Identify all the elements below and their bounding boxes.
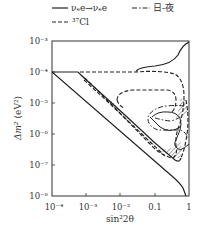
legend-label-nue: νₑe→νₑe (71, 3, 107, 13)
svg-text:10⁻⁶: 10⁻⁶ (29, 129, 48, 139)
svg-text:0.1: 0.1 (148, 202, 162, 212)
dashed-curve-inner-lower (117, 100, 124, 108)
x-axis-label: sin²2θ (106, 214, 134, 224)
legend-item-solid: νₑe→νₑe (52, 3, 107, 13)
plot-area (52, 42, 189, 196)
y-tick-labels: 10⁻³ 10⁻⁴ 10⁻⁵ 10⁻⁶ 10⁻⁷ 10⁻⁸ (29, 36, 48, 201)
chart: νₑe→νₑe 日-夜 ³⁷Cl Δm²(eV²) 10⁻³ 10⁻⁴ 10⁻⁵… (0, 0, 201, 234)
dashed-curve-inner (117, 90, 176, 112)
svg-text:10⁻²: 10⁻² (112, 202, 131, 212)
svg-text:10⁻⁴: 10⁻⁴ (29, 67, 48, 77)
solid-curve-upper (52, 72, 181, 161)
svg-text:10⁻³: 10⁻³ (79, 202, 98, 212)
x-tick-labels: 10⁻⁴ 10⁻³ 10⁻² 0.1 1 (45, 202, 192, 212)
svg-text:1: 1 (186, 202, 191, 212)
solid-curve-lower (52, 72, 186, 196)
legend-item-dashed: ³⁷Cl (52, 17, 89, 27)
svg-text:10⁻⁷: 10⁻⁷ (29, 160, 48, 170)
svg-text:10⁻⁴: 10⁻⁴ (45, 202, 64, 212)
svg-text:10⁻⁵: 10⁻⁵ (29, 98, 48, 108)
dashed-curve-upper (80, 71, 184, 158)
svg-text:10⁻³: 10⁻³ (29, 36, 48, 46)
legend: νₑe→νₑe 日-夜 ³⁷Cl (52, 2, 174, 27)
solid-curve-top (136, 42, 189, 71)
legend-label-cl37: ³⁷Cl (72, 17, 89, 27)
svg-text:10⁻⁸: 10⁻⁸ (29, 191, 48, 201)
y-axis-label: Δm²(eV²) (13, 96, 23, 141)
legend-item-daynight: 日-夜 (132, 2, 174, 13)
legend-label-daynight: 日-夜 (153, 2, 174, 13)
